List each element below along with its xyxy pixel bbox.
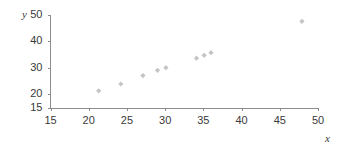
x-tick-label: 25 bbox=[115, 114, 139, 126]
y-tick-label: 50 bbox=[21, 8, 43, 20]
y-tick-label: 15 bbox=[21, 101, 43, 113]
y-tick-label: 30 bbox=[21, 61, 43, 73]
data-point bbox=[155, 68, 160, 73]
data-point bbox=[202, 53, 207, 58]
data-point bbox=[96, 88, 101, 93]
x-tick-label: 30 bbox=[153, 114, 177, 126]
axis-lines bbox=[50, 15, 318, 109]
y-tick-label: 20 bbox=[21, 87, 43, 99]
x-tick-label: 40 bbox=[230, 114, 254, 126]
data-point bbox=[194, 56, 199, 61]
plot-area bbox=[0, 0, 348, 155]
scatter-plot-figure: y x 1520304050 1520253035404550 bbox=[0, 0, 348, 155]
data-point bbox=[163, 65, 168, 70]
data-points-group bbox=[96, 19, 304, 94]
data-point bbox=[208, 50, 213, 55]
x-tick-label: 50 bbox=[306, 114, 330, 126]
data-point bbox=[118, 81, 123, 86]
data-point bbox=[140, 73, 145, 78]
x-tick-label: 15 bbox=[39, 114, 63, 126]
x-tick-label: 45 bbox=[268, 114, 292, 126]
x-tick-label: 35 bbox=[191, 114, 215, 126]
y-tick-label: 40 bbox=[21, 34, 43, 46]
data-point bbox=[299, 19, 304, 24]
x-tick-label: 20 bbox=[77, 114, 101, 126]
